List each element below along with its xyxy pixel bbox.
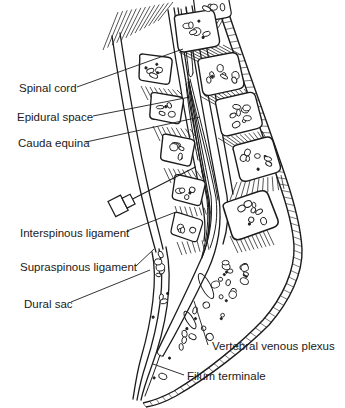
bone-dot — [152, 316, 155, 319]
bone-blob — [168, 111, 176, 117]
bone-dot — [164, 105, 167, 108]
leader-lines — [71, 49, 208, 375]
hatch-line — [169, 394, 173, 398]
interspinous-fibre-fan — [103, 2, 173, 50]
bone-blob — [219, 295, 223, 300]
label-dural-sac: Dural sac — [24, 298, 73, 310]
bone-blob — [220, 3, 225, 11]
bone-dot — [198, 20, 201, 23]
bone-dot — [153, 377, 155, 379]
hatch-line — [126, 8, 141, 38]
bone-blob — [170, 143, 179, 151]
bone-blob — [236, 109, 240, 116]
bone-dot — [257, 168, 260, 171]
hatch-line — [284, 197, 293, 199]
bone-blob — [188, 22, 193, 29]
hatch-line — [277, 302, 284, 306]
bone-blob — [180, 227, 185, 233]
bone-blob — [221, 313, 225, 317]
leader-filum-terminale — [153, 364, 184, 375]
bone-blob — [254, 153, 260, 158]
vertebral-venous-plexus-channels — [182, 272, 217, 331]
hatch-line — [150, 401, 153, 405]
bone-dot — [211, 75, 213, 77]
label-interspinous-ligament: Interspinous ligament — [20, 227, 130, 239]
bone-blob — [222, 260, 229, 265]
hatch-line — [265, 318, 272, 322]
bone-blob — [158, 372, 168, 380]
hatch-line — [255, 328, 261, 332]
bone-blob — [188, 333, 197, 341]
spine-diagram: Spinal cord Epidural space Cauda equina … — [0, 0, 345, 408]
hatch-line — [280, 296, 287, 300]
bone-blob — [179, 188, 184, 193]
hatch-line — [272, 176, 273, 191]
hatch-line — [293, 237, 301, 240]
hatch-line — [250, 333, 256, 337]
hatch-line — [141, 86, 148, 100]
vertebral-body-l5 — [222, 188, 280, 241]
bone-blob — [243, 105, 251, 112]
leader-interspinous-ligament — [127, 212, 176, 231]
leader-supraspinous-ligament — [136, 249, 154, 266]
bone-dot — [225, 300, 227, 302]
label-vertebral-venous-plexus: Vertebral venous plexus — [212, 340, 335, 352]
hatch-line — [232, 48, 240, 49]
bone-blob — [218, 277, 223, 282]
hatch-line — [291, 223, 299, 226]
bone-blob — [184, 194, 189, 200]
bone-blob — [227, 269, 233, 274]
hatch-line — [241, 181, 246, 198]
bone-dot — [156, 71, 159, 74]
hatch-line — [286, 283, 293, 287]
hatch-line — [153, 3, 168, 24]
hatch-line — [131, 7, 146, 36]
bone-blob — [239, 276, 249, 285]
hatch-line — [149, 4, 164, 26]
hatch-line — [282, 191, 291, 193]
bone-blob — [157, 251, 164, 259]
bone-dot — [185, 327, 188, 330]
hatch-line — [135, 6, 150, 33]
label-epidural-space: Epidural space — [17, 111, 93, 123]
hatch-line — [219, 359, 224, 363]
hatch-line — [156, 399, 159, 403]
hatch-line — [162, 397, 165, 401]
hatch-line — [187, 241, 191, 253]
label-cauda-equina: Cauda equina — [18, 137, 90, 149]
hatch-line — [144, 5, 159, 29]
bone-blob — [181, 336, 187, 344]
hatch-line — [121, 9, 136, 41]
hatch-line — [194, 207, 197, 216]
hatch-line — [180, 387, 184, 391]
hatch-line — [279, 184, 288, 185]
figure-canvas: Spinal cord Epidural space Cauda equina … — [0, 0, 345, 408]
hatch-line — [288, 210, 296, 212]
hatch-line — [283, 290, 290, 294]
hatch-line — [186, 383, 190, 387]
hatch-line — [207, 240, 209, 250]
bone-blob — [179, 343, 184, 350]
bone-blob — [225, 279, 231, 286]
bone-blob — [243, 115, 251, 120]
bone-dot — [168, 357, 171, 360]
hatch-line — [103, 12, 118, 50]
leader-dural-sac — [71, 270, 150, 302]
spinous-process — [159, 134, 196, 167]
bone-blob — [246, 156, 250, 162]
hatch-line — [294, 257, 302, 260]
hatch-line — [291, 271, 299, 274]
hatch-line — [190, 207, 193, 217]
bone-blob — [156, 105, 164, 109]
hatch-line — [108, 11, 123, 47]
hatch-line — [214, 364, 219, 368]
bone-dot — [220, 317, 223, 320]
bone-dot — [194, 317, 197, 320]
hatch-line — [225, 355, 230, 359]
hatch-line — [158, 2, 173, 21]
hatch-line — [177, 242, 182, 255]
bone-blob — [210, 4, 218, 10]
hatch-line — [153, 126, 160, 141]
bone-dot — [248, 223, 251, 226]
hatch-line — [273, 307, 280, 311]
